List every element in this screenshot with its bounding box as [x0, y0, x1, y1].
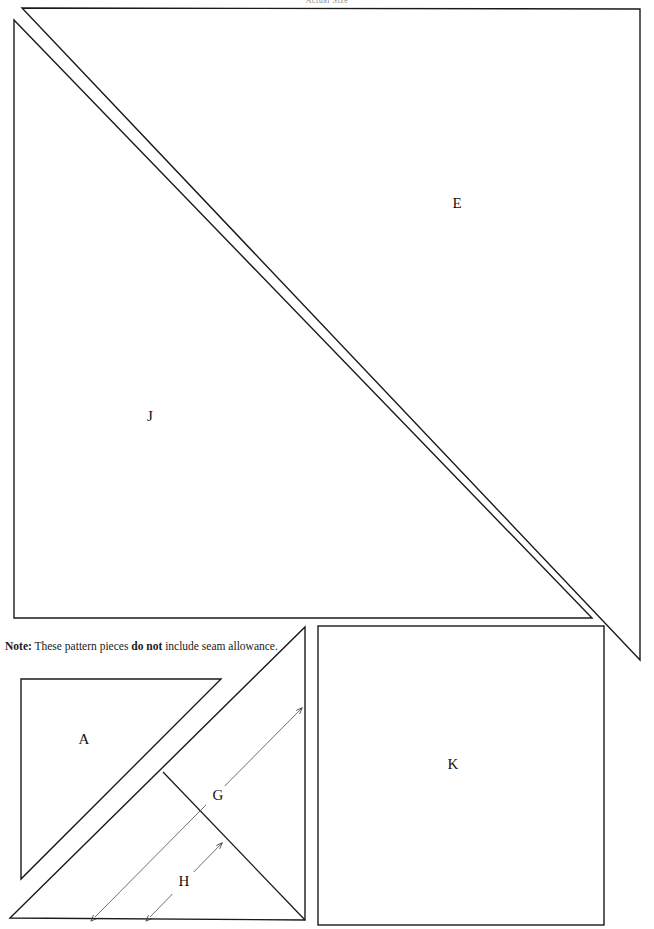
- pattern-diagram: E J A G H K: [0, 0, 654, 929]
- note-text-before: These pattern pieces: [32, 640, 131, 652]
- pattern-sheet-page: Actual Size E J A: [0, 0, 654, 929]
- piece-A-label: A: [79, 731, 90, 747]
- dimension-G-label: G: [213, 787, 224, 803]
- note-text-after: include seam allowance.: [162, 640, 278, 652]
- piece-J-label: J: [147, 408, 153, 424]
- piece-K-group[interactable]: K: [318, 626, 604, 925]
- note-prefix: Note:: [5, 640, 32, 652]
- piece-K-outline[interactable]: [318, 626, 604, 925]
- piece-K-label: K: [448, 756, 459, 772]
- seam-allowance-note: Note: These pattern pieces do not includ…: [5, 640, 278, 652]
- dimension-H-label: H: [179, 873, 190, 889]
- note-emphasis: do not: [131, 640, 162, 652]
- piece-E-label: E: [452, 195, 461, 211]
